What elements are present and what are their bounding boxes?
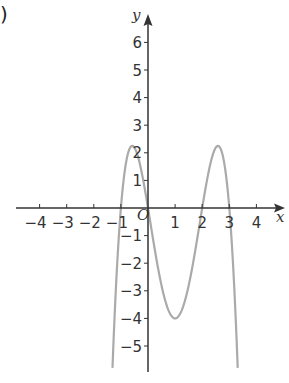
y-tick-label: −4 <box>120 310 142 328</box>
y-tick-label: 4 <box>132 89 142 107</box>
x-tick-label: 4 <box>252 214 262 232</box>
y-tick-label: 3 <box>132 117 142 135</box>
x-tick-label: 2 <box>197 214 207 232</box>
y-tick-label: 6 <box>132 34 142 52</box>
x-tick-label: −3 <box>52 214 74 232</box>
x-axis-label: x <box>276 208 285 226</box>
ticks: −4−3−2−11234654321−1−2−3−4−5 <box>25 34 262 356</box>
y-tick-label: 1 <box>132 172 142 190</box>
y-tick-label: 2 <box>132 144 142 162</box>
y-axis-label: y <box>131 6 141 24</box>
y-tick-label: −2 <box>120 255 142 273</box>
y-tick-label: −1 <box>120 227 142 245</box>
y-tick-label: 5 <box>132 62 142 80</box>
x-tick-label: 3 <box>225 214 235 232</box>
chart-plot: x y O −4−3−2−11234654321−1−2−3−4−5 <box>0 0 289 383</box>
axes: x y O <box>16 6 285 372</box>
x-tick-label: −4 <box>25 214 47 232</box>
x-tick-label: 1 <box>170 214 180 232</box>
y-tick-label: −3 <box>120 282 142 300</box>
y-tick-label: −5 <box>120 338 142 356</box>
origin-label: O <box>137 206 149 224</box>
x-tick-label: −2 <box>79 214 101 232</box>
